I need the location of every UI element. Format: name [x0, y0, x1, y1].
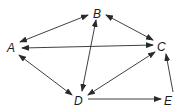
edge-b-d — [82, 20, 96, 91]
node-e-label: E — [164, 94, 173, 108]
graph-diagram: A B C D E — [0, 0, 182, 111]
node-a-label: A — [6, 41, 15, 55]
edge-a-b — [20, 15, 88, 42]
edge-c-d — [88, 52, 155, 95]
edge-b-c — [106, 15, 153, 40]
node-b-label: B — [93, 7, 101, 21]
edge-e-c — [166, 54, 173, 92]
node-c-label: C — [157, 40, 166, 54]
edge-a-c — [22, 45, 153, 48]
node-d-label: D — [74, 94, 83, 108]
edge-a-d — [19, 55, 72, 95]
